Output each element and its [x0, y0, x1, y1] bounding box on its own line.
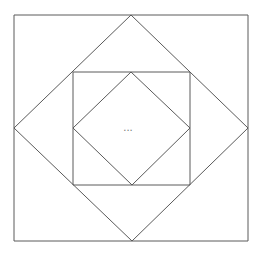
nested-squares-diagram: ... [0, 0, 261, 253]
center-ellipsis: ... [123, 122, 133, 133]
